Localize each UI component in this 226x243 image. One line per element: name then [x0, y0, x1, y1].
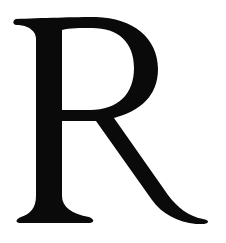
glyph-canvas: R — [0, 0, 226, 243]
letter-r-glyph — [0, 0, 226, 243]
letter-r-shape — [13, 17, 208, 224]
